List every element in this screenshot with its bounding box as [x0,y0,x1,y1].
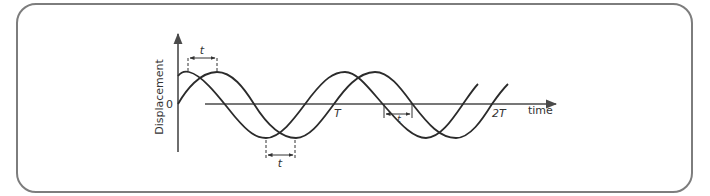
axis-shift-annotation: t [384,104,412,124]
double-period-tick-label: 2T [492,107,507,120]
top-shift-label: t [200,44,205,57]
wave-b-curve [178,72,508,138]
bottom-shift-annotation: t [266,140,295,170]
period-tick-label: T [334,107,342,120]
axis-shift-label: t [397,114,401,124]
y-axis-label: Displacement [153,59,166,135]
top-shift-annotation: t [188,44,217,72]
wave-diagram: t t t 0 Displacement time T 2T [0,0,710,196]
origin-label: 0 [166,98,173,111]
x-axis-label: time [528,104,553,117]
bottom-shift-label: t [278,157,283,170]
